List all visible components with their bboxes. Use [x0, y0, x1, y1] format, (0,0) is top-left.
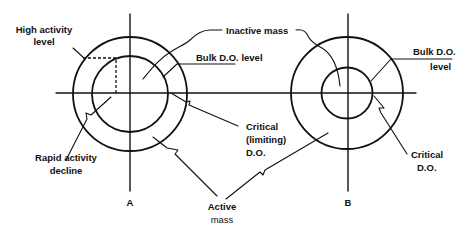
rapid-decline-label-line2: decline: [50, 165, 83, 176]
bulk-do-label-a: Bulk D.O. level: [196, 52, 263, 63]
panel-label-b: B: [345, 197, 352, 208]
floc-diagram: High activity level Inactive mass Bulk D…: [0, 0, 467, 234]
inactive-mass-label: Inactive mass: [226, 25, 288, 36]
high-activity-label-line1: High activity: [16, 24, 73, 35]
bulk-do-label-b-line2: level: [430, 61, 451, 72]
critical-label-b-line2: D.O.: [417, 162, 437, 173]
rapid-decline-leader: [66, 97, 111, 160]
rapid-decline-label-line1: Rapid activity: [35, 152, 97, 163]
critical-label-b-line1: Critical: [411, 149, 443, 160]
bulk-do-label-b-line1: Bulk D.O.: [413, 46, 456, 57]
bulk-do-leader-a: [163, 64, 235, 77]
critical-label-a-line1: Critical: [246, 121, 278, 132]
active-mass-label-line2: mass: [211, 214, 234, 225]
panel-a: High activity level Inactive mass Bulk D…: [16, 24, 289, 208]
high-activity-dashed-marker: [83, 58, 116, 93]
panel-label-a: A: [127, 197, 134, 208]
active-mass-leader-a: [153, 137, 217, 196]
critical-label-a-line2: (limiting): [246, 134, 286, 145]
high-activity-leader: [73, 48, 84, 58]
high-activity-label-line2: level: [33, 36, 54, 47]
critical-label-a-line3: D.O.: [246, 147, 266, 158]
active-mass-label-line1: Active: [208, 201, 237, 212]
